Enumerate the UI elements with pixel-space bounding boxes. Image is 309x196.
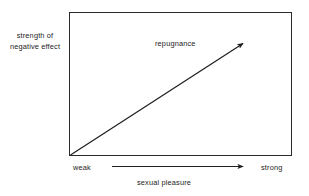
y-axis-label: strength of negative effect bbox=[4, 30, 66, 52]
x-axis-tick-label-strong: strong bbox=[261, 162, 282, 173]
y-axis-label-line-1: strength of bbox=[4, 30, 66, 41]
plot-frame bbox=[69, 12, 292, 156]
y-axis-label-line-2: negative effect bbox=[4, 41, 66, 52]
x-axis-tick-label-weak: weak bbox=[73, 162, 91, 173]
figure-diagram: strength of negative effect repugnance w… bbox=[0, 0, 309, 196]
series-label-repugnance: repugnance bbox=[155, 38, 196, 49]
x-axis-label: sexual pleasure bbox=[137, 177, 191, 188]
